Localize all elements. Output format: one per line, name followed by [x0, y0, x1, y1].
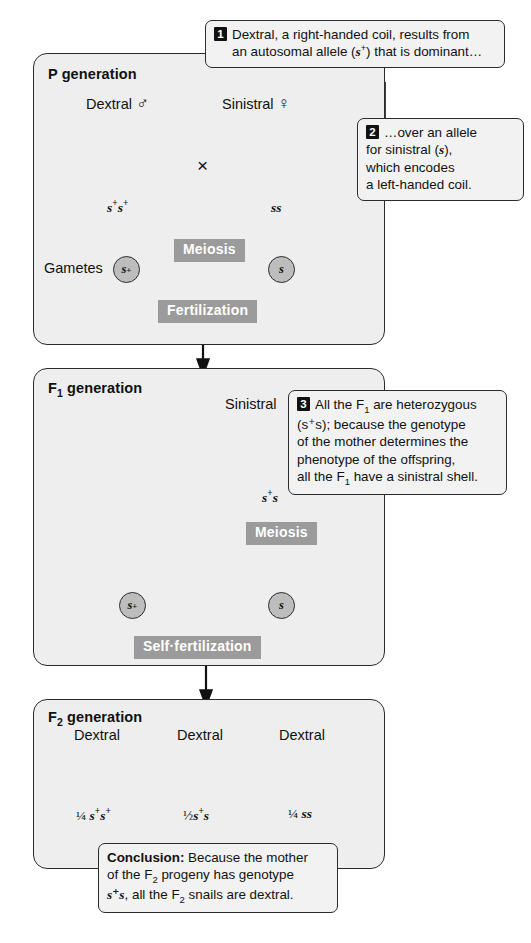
- callout-2-line3: which encodes: [366, 160, 455, 175]
- callout-3-line4: phenotype of the offspring,: [297, 452, 455, 467]
- male-symbol-icon: ♂: [136, 94, 149, 113]
- callout-2-number: 2: [366, 125, 379, 139]
- banner-self-fertilization: Self·fertilization: [134, 636, 261, 659]
- callout-2-line4: a left-handed coil.: [366, 177, 472, 192]
- callout-1-number: 1: [214, 27, 227, 41]
- callout-2: 2…over an allele for sinistral (s), whic…: [357, 118, 524, 201]
- banner-fertilization: Fertilization: [158, 300, 257, 323]
- callout-3-line1a: All the F: [315, 397, 364, 412]
- p-male-genotype: s+s+: [107, 198, 128, 216]
- f2-genotype-2: ½s+s: [183, 806, 209, 824]
- callout-3-number: 3: [297, 397, 310, 411]
- p-female-phenotype-label: Sinistral ♀: [222, 94, 290, 114]
- conclusion-label: Conclusion:: [107, 850, 184, 865]
- callout-2-line2b: ),: [444, 142, 452, 157]
- conclusion-genotype: s⁺s: [107, 887, 125, 902]
- p-female-genotype: ss: [271, 200, 282, 216]
- panel-title-p: P generation: [48, 66, 137, 82]
- f2-genotype-1: ¼ s+s+: [76, 806, 111, 824]
- conclusion-line2a: of the F: [107, 867, 152, 882]
- callout-1-line2a: an autosomal allele (: [232, 45, 356, 60]
- callout-3-line2: (s⁺s); because the genotype: [297, 417, 466, 432]
- gamete-f1-right: s: [268, 592, 295, 619]
- f2-phenotype-3: Dextral: [279, 727, 325, 743]
- gametes-label: Gametes: [44, 260, 103, 276]
- banner-meiosis-f1: Meiosis: [246, 522, 317, 545]
- gamete-p-male: s+: [113, 256, 140, 283]
- f1-genotype: s+s: [262, 488, 278, 506]
- f2-genotype-3: ¼ ss: [288, 806, 312, 822]
- callout-2-line2a: for sinistral (: [366, 142, 439, 157]
- panel-title-f2: F2 generation: [48, 709, 142, 728]
- diagram-canvas: P generation Dextral ♂ Sinistral ♀ × s+s…: [0, 0, 531, 943]
- callout-3-line3: of the mother determines the: [297, 434, 468, 449]
- cross-symbol: ×: [197, 155, 208, 177]
- callout-3-line5a: all the F: [297, 469, 345, 484]
- gamete-f1-left: s+: [119, 592, 146, 619]
- callout-1: 1Dextral, a right-handed coil, results f…: [205, 20, 505, 68]
- gamete-p-female: s: [268, 256, 295, 283]
- conclusion-line1: Because the mother: [184, 850, 308, 865]
- f2-phenotype-1: Dextral: [74, 727, 120, 743]
- female-symbol-icon: ♀: [278, 94, 291, 113]
- banner-meiosis-p: Meiosis: [174, 239, 245, 262]
- callout-1-line2b: ) that is dominant…: [366, 45, 482, 60]
- p-male-phenotype-label: Dextral ♂: [86, 94, 149, 114]
- callout-3: 3All the F1 are heterozygous (s⁺s); beca…: [288, 390, 507, 495]
- f2-phenotype-2: Dextral: [177, 727, 223, 743]
- conclusion-box: Conclusion: Because the mother of the F2…: [98, 843, 338, 913]
- panel-title-f1: F1 generation: [48, 380, 142, 399]
- f1-phenotype-label: Sinistral: [225, 396, 277, 412]
- callout-2-line1: …over an allele: [384, 125, 477, 140]
- callout-1-line1: Dextral, a right-handed coil, results fr…: [232, 27, 469, 42]
